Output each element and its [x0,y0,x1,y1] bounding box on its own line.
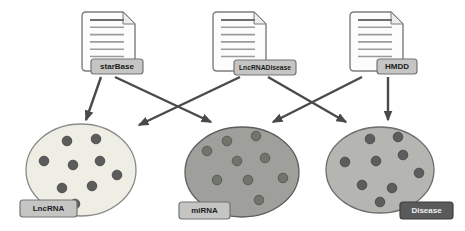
lncrna-entity-dot [57,183,67,193]
arrow-hmdd-to-mirna [273,77,362,122]
disease-entity-dot [398,150,408,160]
mirna-entity-dot [254,195,264,205]
diagram-svg: starBaseLncRNADiseaseHMDDLncRNAmiRNADise… [0,0,465,231]
lncrna-entity-dot [91,134,101,144]
disease-entity-dot [414,168,424,178]
disease-entity-dot [357,180,367,190]
set-lncrna-label: LncRNA [20,200,77,217]
diagram: starBaseLncRNADiseaseHMDDLncRNAmiRNADise… [0,0,465,231]
source-hmdd-label: HMDD [377,59,417,74]
mirna-entity-dot [251,131,261,141]
set-mirna-label: miRNA [179,202,230,219]
lncrna-entity-dot [62,136,72,146]
lncrna-entity-dot [87,181,97,191]
arrow-lncrnadisease-to-lncrna [139,77,240,125]
disease-entity-dot [375,197,385,207]
disease-entity-dot [365,134,375,144]
disease-entity-dot [387,183,397,193]
source-hmdd-label-text: HMDD [385,62,409,71]
set-mirna-label-text: miRNA [191,206,218,215]
disease-entity-dot [393,132,403,142]
lncrna-entity-dot [95,156,105,166]
arrow-lncrnadisease-to-disease [268,77,346,122]
document-fold-corner [391,12,403,24]
mirna-entity-dot [260,153,270,163]
set-disease-label: Disease [400,202,453,219]
arrow-starbase-to-lncrna [86,77,101,120]
source-starbase-label: starBase [91,59,143,74]
mirna-entity-dot [222,136,232,146]
mirna-entity-dot [232,156,242,166]
mirna-entity-dot [202,146,212,156]
set-lncrna-label-text: LncRNA [33,204,65,213]
mirna-entity-dot [212,175,222,185]
source-lncrnadisease-label: LncRNADisease [234,60,296,75]
disease-entity-dot [340,157,350,167]
lncrna-entity-dot [112,170,122,180]
source-starbase-label-text: starBase [100,62,134,71]
document-fold-corner [254,12,266,24]
set-disease [326,127,434,213]
mirna-entity-dot [278,173,288,183]
source-lncrnadisease-label-text: LncRNADisease [239,63,291,72]
lncrna-entity-dot [68,160,78,170]
lncrna-entity-dot [39,156,49,166]
arrow-starbase-to-mirna [115,77,211,122]
document-fold-corner [123,12,135,24]
mirna-entity-dot [243,175,253,185]
set-disease-label-text: Disease [411,206,442,215]
disease-entity-dot [371,156,381,166]
